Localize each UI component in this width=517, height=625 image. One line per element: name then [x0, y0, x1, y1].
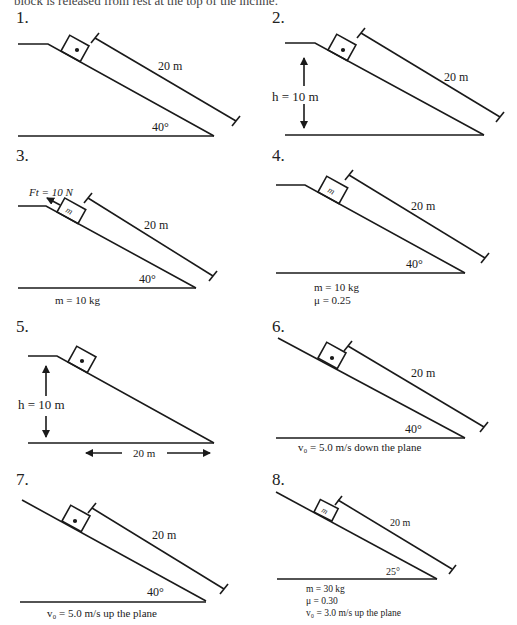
diagram-2	[285, 28, 504, 135]
angle-label-6: 40°	[405, 422, 422, 436]
force-label-3: Ft = 10 N	[28, 186, 73, 198]
diagram-7	[20, 500, 228, 602]
block-label-4: m	[326, 185, 337, 197]
length-label-8: 20 m	[390, 517, 411, 528]
block-6	[318, 342, 346, 368]
info-7-line-1: v₀ = 5.0 m/s up the plane	[47, 607, 157, 619]
info-4-line-1: m = 10 kg	[314, 281, 360, 293]
angle-label-1: 40°	[152, 120, 169, 134]
angle-label-3: 40°	[139, 272, 156, 286]
info-8-line-2: μ = 0.30	[306, 596, 338, 606]
block-label-8: m	[320, 506, 329, 517]
height-label-2: h = 10 m	[272, 89, 319, 104]
angle-label-8: 25°	[386, 566, 400, 577]
base-label-5: 20 m	[133, 447, 156, 459]
diagram-4	[276, 170, 489, 273]
angle-label-4: 40°	[406, 257, 423, 271]
diagram-3	[18, 193, 217, 288]
length-label-3: 20 m	[144, 218, 169, 232]
block-label-3: m	[64, 205, 75, 217]
height-label-5: h = 10 m	[18, 397, 65, 412]
length-label-6: 20 m	[411, 366, 436, 380]
info-8-line-3: v₀ = 3.0 m/s up the plane	[306, 608, 401, 618]
block-1	[61, 35, 89, 61]
block-2	[328, 34, 356, 60]
block-7	[62, 505, 90, 531]
info-4-line-2: μ = 0.25	[314, 294, 351, 306]
length-label-4: 20 m	[411, 199, 436, 213]
incline-diagrams: 20 m 40° 20 m h = 10 m 20 m 40° Ft = 10 …	[0, 0, 517, 625]
info-6-line-1: v₀ = 5.0 m/s down the plane	[298, 441, 422, 453]
length-label-2: 20 m	[444, 70, 469, 84]
length-label-1: 20 m	[158, 59, 183, 73]
info-8-line-1: m = 30 kg	[306, 584, 345, 594]
diagram-1	[18, 33, 240, 136]
info-3-line-1: m = 10 kg	[55, 294, 101, 306]
angle-label-7: 40°	[147, 585, 164, 599]
length-label-7: 20 m	[152, 528, 177, 542]
diagram-6	[276, 338, 488, 438]
diagram-8	[276, 492, 456, 579]
